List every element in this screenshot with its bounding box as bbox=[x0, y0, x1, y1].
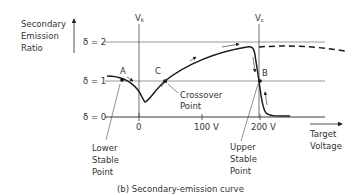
lower-stable-line1: Lower bbox=[92, 143, 118, 153]
vc-label: Vc bbox=[255, 13, 264, 23]
lower-stable-line2: Stable bbox=[92, 155, 119, 165]
crossover-label-line2: Point bbox=[180, 101, 202, 111]
upper-stable-line2: Stable bbox=[230, 154, 257, 164]
point-c-label: C bbox=[155, 66, 161, 76]
lower-stable-line3: Point bbox=[92, 167, 114, 177]
point-b-dot bbox=[258, 79, 262, 83]
y-axis-label: Secondary Emission Ratio bbox=[21, 19, 66, 53]
figure-caption: (b) Secondary-emission curve bbox=[117, 184, 244, 194]
delta0-label: δ = 0 bbox=[83, 112, 106, 122]
arrow-peak-icon bbox=[222, 44, 239, 47]
upper-stable-line3: Point bbox=[230, 166, 252, 176]
svg-text:Ratio: Ratio bbox=[21, 43, 43, 53]
upper-stable-leader bbox=[241, 84, 258, 141]
upper-stable-line1: Upper bbox=[230, 142, 256, 152]
dashed-curve bbox=[259, 46, 345, 51]
point-a-dot bbox=[120, 78, 124, 82]
tick-label-100: 100 V bbox=[194, 122, 219, 132]
tick-label-200: 200 V bbox=[251, 122, 276, 132]
arrow-rise-icon bbox=[190, 57, 196, 61]
x-axis-label-line1: Target bbox=[309, 129, 337, 139]
point-b-label: B bbox=[262, 68, 268, 78]
vk-label: Vk bbox=[135, 13, 145, 23]
lower-stable-leader bbox=[106, 84, 120, 140]
crossover-leader bbox=[168, 84, 178, 93]
point-a-label: A bbox=[120, 66, 126, 76]
arrow-b-up-icon bbox=[265, 92, 267, 105]
crossover-label-line1: Crossover bbox=[180, 90, 223, 100]
secondary-emission-diagram: Secondary Emission Ratio δ = 2 δ = 1 δ =… bbox=[0, 0, 361, 195]
x-axis-label-line2: Voltage bbox=[310, 141, 342, 151]
svg-text:Secondary: Secondary bbox=[21, 19, 66, 29]
delta2-label: δ = 2 bbox=[83, 37, 106, 47]
delta1-label: δ = 1 bbox=[83, 76, 106, 86]
svg-text:Emission: Emission bbox=[21, 31, 59, 41]
tick-label-zero: 0 bbox=[136, 122, 141, 132]
arrow-b-down-icon bbox=[253, 57, 255, 72]
